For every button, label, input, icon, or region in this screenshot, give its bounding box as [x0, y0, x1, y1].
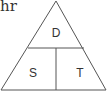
triangle-outline [1, 1, 106, 90]
distance-label: D [52, 26, 61, 40]
speed-label: S [29, 66, 37, 80]
time-label: T [76, 66, 84, 80]
dst-triangle-diagram: D S T [0, 0, 107, 93]
